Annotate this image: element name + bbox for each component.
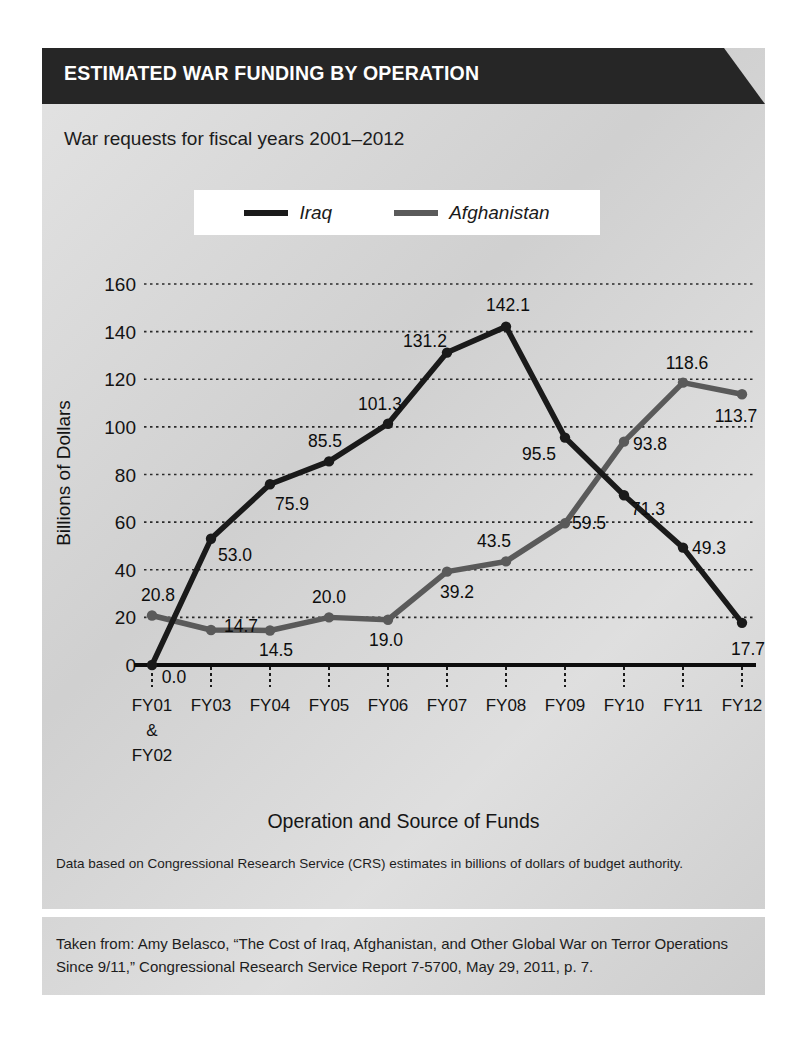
data-labels: 0.053.075.985.5101.3131.2142.195.571.349… bbox=[141, 295, 765, 687]
data-point bbox=[265, 625, 275, 635]
data-point bbox=[560, 518, 570, 528]
data-label: 14.5 bbox=[259, 640, 293, 660]
data-label: 43.5 bbox=[477, 531, 511, 551]
data-point bbox=[206, 625, 216, 635]
data-label: 75.9 bbox=[275, 494, 309, 514]
y-tick-label: 100 bbox=[104, 417, 136, 438]
data-label: 20.8 bbox=[141, 585, 175, 605]
y-tick-label: 40 bbox=[115, 560, 136, 581]
data-point bbox=[442, 566, 452, 576]
data-point bbox=[678, 542, 688, 552]
x-tick-label: FY04 bbox=[250, 696, 291, 715]
data-label: 39.2 bbox=[440, 582, 474, 602]
data-note: Data based on Congressional Research Ser… bbox=[56, 854, 746, 874]
data-point bbox=[560, 432, 570, 442]
data-point bbox=[737, 618, 747, 628]
x-tick-label: FY05 bbox=[309, 696, 350, 715]
data-label: 19.0 bbox=[369, 630, 403, 650]
line-chart: 020406080100120140160 Billions of Dollar… bbox=[42, 48, 765, 768]
x-tick-label: FY02 bbox=[132, 746, 173, 765]
x-tick-label: FY07 bbox=[427, 696, 468, 715]
source-divider bbox=[42, 909, 765, 917]
x-tick-label: FY03 bbox=[191, 696, 232, 715]
data-point bbox=[383, 419, 393, 429]
data-label: 131.2 bbox=[403, 331, 447, 351]
x-tick-label: FY10 bbox=[604, 696, 645, 715]
data-label: 71.3 bbox=[631, 499, 665, 519]
data-point bbox=[383, 615, 393, 625]
y-tick-label: 140 bbox=[104, 322, 136, 343]
x-axis-ticks: FY01&FY02FY03FY04FY05FY06FY07FY08FY09FY1… bbox=[132, 667, 763, 765]
data-label: 101.3 bbox=[358, 394, 402, 414]
x-tick-label: & bbox=[146, 721, 158, 740]
data-point bbox=[501, 321, 511, 331]
data-label: 95.5 bbox=[522, 444, 556, 464]
data-label: 59.5 bbox=[572, 513, 606, 533]
data-label: 113.7 bbox=[715, 406, 758, 426]
x-tick-label: FY09 bbox=[545, 696, 586, 715]
y-tick-label: 80 bbox=[115, 465, 136, 486]
series-line-iraq bbox=[152, 327, 742, 665]
y-axis-ticks: 020406080100120140160 bbox=[104, 274, 136, 676]
figure-panel: ESTIMATED WAR FUNDING BY OPERATION War r… bbox=[42, 48, 765, 995]
data-label: 93.8 bbox=[633, 434, 667, 454]
x-tick-label: FY06 bbox=[368, 696, 409, 715]
data-point bbox=[147, 610, 157, 620]
y-tick-label: 120 bbox=[104, 369, 136, 390]
data-label: 14.7 bbox=[224, 616, 258, 636]
data-label: 53.0 bbox=[218, 545, 252, 565]
data-label: 0.0 bbox=[162, 667, 187, 687]
x-tick-label: FY08 bbox=[486, 696, 527, 715]
x-axis-title: Operation and Source of Funds bbox=[42, 810, 765, 833]
data-point bbox=[737, 389, 747, 399]
data-point bbox=[324, 456, 334, 466]
y-tick-label: 60 bbox=[115, 512, 136, 533]
x-tick-label: FY12 bbox=[722, 696, 763, 715]
source-citation: Taken from: Amy Belasco, “The Cost of Ir… bbox=[56, 933, 736, 979]
data-point bbox=[678, 377, 688, 387]
data-label: 17.7 bbox=[731, 639, 765, 659]
data-label: 49.3 bbox=[692, 538, 726, 558]
y-tick-label: 160 bbox=[104, 274, 136, 295]
data-point bbox=[324, 612, 334, 622]
data-point bbox=[206, 534, 216, 544]
y-tick-label: 20 bbox=[115, 607, 136, 628]
data-point bbox=[619, 490, 629, 500]
plot-area: 020406080100120140160 Billions of Dollar… bbox=[42, 48, 765, 768]
x-tick-label: FY11 bbox=[663, 696, 702, 715]
data-label: 20.0 bbox=[312, 587, 346, 607]
data-label: 118.6 bbox=[666, 353, 709, 373]
data-point bbox=[619, 436, 629, 446]
data-label: 142.1 bbox=[486, 295, 530, 315]
y-axis-title: Billions of Dollars bbox=[53, 400, 74, 546]
x-tick-label: FY01 bbox=[132, 696, 173, 715]
data-label: 85.5 bbox=[308, 431, 342, 451]
data-point bbox=[265, 479, 275, 489]
data-point bbox=[501, 556, 511, 566]
